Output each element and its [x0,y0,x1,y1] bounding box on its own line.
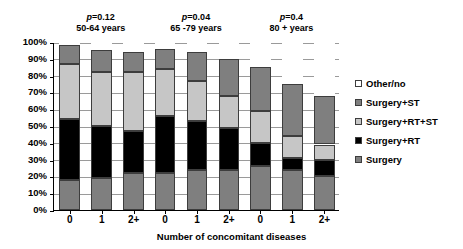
group-pvalue: p=0.4 [221,12,361,23]
x-axis-tick-label: 2+ [314,214,335,225]
segment-other/no [155,42,176,49]
segment-surgery-rt [187,121,208,170]
x-axis-tick-mark [102,210,103,214]
segment-surgery-rt-st [187,81,208,121]
x-axis-tick-mark [324,210,325,214]
segment-surgery-st [219,59,240,96]
segment-surgery-st [250,67,271,111]
segment-other/no [123,42,144,52]
legend-item-surgery-st[interactable]: Surgery+ST [355,93,463,112]
x-axis-tick-label: 1 [282,214,303,225]
segment-surgery [314,176,335,210]
segment-surgery-st [187,52,208,81]
segment-surgery [250,166,271,210]
segment-surgery-rt-st [123,72,144,131]
x-axis-tick-label: 0 [59,214,80,225]
segment-surgery-rt-st [314,145,335,160]
x-axis-tick-label: 0 [250,214,271,225]
segment-surgery-rt [314,160,335,177]
segment-surgery-rt [91,126,112,178]
segment-surgery-rt [250,143,271,167]
x-axis-tick-label: 2+ [219,214,240,225]
segment-other/no [314,42,335,96]
segment-surgery-rt [155,116,176,173]
segment-surgery [282,170,303,210]
segment-surgery-st [91,50,112,72]
legend-swatch-icon [355,156,362,163]
x-axis-tick-mark [292,210,293,214]
segment-surgery-rt-st [250,111,271,143]
segment-surgery-rt-st [91,72,112,126]
y-axis-tick-label: 30% [3,155,47,165]
y-axis-tick-mark [50,144,54,145]
segment-surgery-st [155,49,176,69]
segment-surgery [155,173,176,210]
bar-g2-0[interactable]: 0 [155,43,176,210]
y-axis-tick-mark [50,127,54,128]
bar-g1-1[interactable]: 1 [91,43,112,210]
stacked-bar-chart: p=0.1250-64 years p=0.0465 -79 years p=0… [0,0,463,249]
y-axis-tick-mark [50,177,54,178]
legend-label: Surgery+RT+ST [366,117,438,127]
x-axis-tick-mark [134,210,135,214]
segment-surgery [123,173,144,210]
legend-item-surgery-rt[interactable]: Surgery+RT [355,131,463,150]
segment-surgery [91,178,112,210]
legend-item-other-no[interactable]: Other/no [355,74,463,93]
y-axis-tick-label: 60% [3,104,47,114]
group-age-label: 80 + years [221,23,361,34]
y-axis-tick-label: 0% [3,205,47,215]
segment-other/no [219,42,240,59]
bar-g3-2plus[interactable]: 2+ [314,43,335,210]
x-axis-title: Number of concomitant diseases [0,231,463,242]
segment-surgery-rt-st [59,64,80,119]
y-axis-tick-label: 20% [3,171,47,181]
bar-g1-2plus[interactable]: 2+ [123,43,144,210]
segment-other/no [187,42,208,52]
legend-label: Other/no [366,79,406,89]
y-axis-tick-mark [50,194,54,195]
segment-surgery [187,170,208,210]
y-axis-tick-label: 50% [3,121,47,131]
segment-surgery-st [59,45,80,63]
chart-legend: Other/noSurgery+STSurgery+RT+STSurgery+R… [355,74,463,169]
y-axis-tick-mark [50,110,54,111]
segment-surgery-st [123,52,144,72]
legend-label: Surgery+ST [366,98,420,108]
segment-surgery-st [282,84,303,136]
bar-g2-2plus[interactable]: 2+ [219,43,240,210]
bar-g2-1[interactable]: 1 [187,43,208,210]
y-axis-tick-label: 10% [3,188,47,198]
segment-surgery-rt [282,158,303,170]
y-axis-tick-label: 40% [3,138,47,148]
x-axis-tick-mark [70,210,71,214]
y-axis-tick-mark [50,60,54,61]
segment-other/no [91,42,112,50]
x-axis-tick-label: 1 [91,214,112,225]
x-axis-tick-mark [260,210,261,214]
bar-g3-1[interactable]: 1 [282,43,303,210]
legend-swatch-icon [355,118,362,125]
legend-item-surgery[interactable]: Surgery [355,150,463,169]
legend-swatch-icon [355,80,362,87]
y-axis-tick-mark [50,161,54,162]
bar-g1-0[interactable]: 0 [59,43,80,210]
segment-surgery-rt-st [155,69,176,116]
legend-swatch-icon [355,137,362,144]
group-header-80-plus: p=0.480 + years [221,12,361,33]
segment-other/no [250,42,271,67]
segment-surgery [59,180,80,210]
x-axis-tick-mark [197,210,198,214]
legend-item-surgery-rt-st[interactable]: Surgery+RT+ST [355,112,463,131]
segment-surgery-rt [59,119,80,179]
plot-area: 0%10%20%30%40%50%60%70%80%90%100%012+012… [53,43,339,211]
x-axis-tick-mark [165,210,166,214]
bar-g3-0[interactable]: 0 [250,43,271,210]
segment-surgery-rt-st [219,96,240,128]
y-axis-tick-mark [50,77,54,78]
segment-surgery-rt [219,128,240,170]
x-axis-tick-label: 2+ [123,214,144,225]
y-axis-tick-label: 90% [3,54,47,64]
y-axis-tick-label: 70% [3,87,47,97]
y-axis-tick-mark [50,93,54,94]
